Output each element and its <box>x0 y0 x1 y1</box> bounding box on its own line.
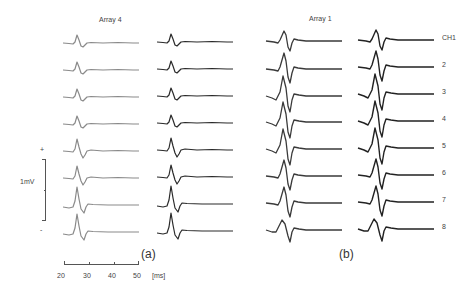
panel-b-col2-traces <box>358 30 434 241</box>
panel-a-col2-traces <box>157 34 233 239</box>
panel-b-col1-traces <box>266 31 342 242</box>
time-axis <box>64 261 139 265</box>
waveform-figure <box>0 0 476 294</box>
voltage-scale-bar <box>42 159 46 221</box>
panel-a-col1-traces <box>63 35 139 240</box>
